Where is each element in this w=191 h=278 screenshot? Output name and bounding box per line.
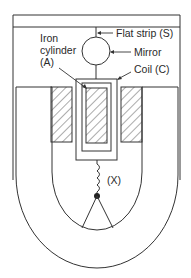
diagram-drawing — [0, 0, 191, 278]
coil-label: Coil (C) — [134, 64, 170, 75]
galvanometer-diagram: Flat strip (S) Mirror Iron cylinder (A) … — [0, 0, 191, 278]
iron-cylinder-label-line3: (A) — [40, 57, 54, 68]
iron-cylinder-label-line2: cylinder — [40, 45, 76, 56]
iron-cylinder — [86, 88, 107, 143]
flat-strip-label: Flat strip (S) — [116, 28, 173, 39]
right-pole-piece — [121, 87, 142, 142]
spring-support — [82, 196, 113, 228]
suspension — [82, 27, 110, 79]
spring-label: (X) — [107, 175, 121, 186]
iron-cylinder-label-line1: Iron — [40, 33, 58, 44]
mirror — [82, 37, 110, 65]
left-pole-piece — [51, 87, 72, 142]
mirror-label: Mirror — [134, 47, 161, 58]
spring — [97, 160, 100, 196]
